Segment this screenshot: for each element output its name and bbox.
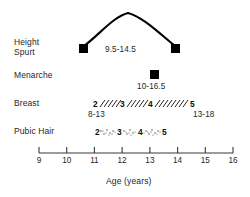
axis-title-age: Age (years) [106,176,152,186]
breast-stage-5: 5 [190,99,195,109]
pubic-hair-stipple-2-3 [100,129,115,135]
pubic-hair-stage-4: 4 [138,127,143,137]
breast-start-range-label: 8-13 [88,110,105,119]
menarche-range-label: 10-16.5 [137,82,165,91]
height-spurt-curve [84,13,175,46]
axis-tick-label-12: 12 [112,156,132,165]
pubic-hair-stage-3: 3 [117,127,122,137]
axis-tick-label-15: 15 [195,156,215,165]
axis-tick-label-9: 9 [29,156,49,165]
axis-tick-label-11: 11 [84,156,104,165]
breast-hatch-2-3 [100,100,121,107]
height-spurt-range-label: 9.5-14.5 [105,45,136,54]
height-spurt-end-marker [171,44,180,53]
breast-hatch-4-5 [155,100,188,107]
row-label-menarche: Menarche [14,71,53,81]
row-label-height-spurt: Height Spurt [14,38,39,57]
pubic-hair-stage-5: 5 [162,127,167,137]
breast-stage-3: 3 [120,99,125,109]
row-label-breast: Breast [14,99,39,109]
breast-stage-2: 2 [93,99,98,109]
pubic-hair-stage-2: 2 [95,127,100,137]
breast-stage-4: 4 [148,99,153,109]
puberty-timeline-figure: Height Spurt 9.5-14.5 Menarche 10-16.5 B… [0,0,250,197]
axis-tick-label-10: 10 [57,156,77,165]
menarche-marker [150,70,159,79]
height-spurt-start-marker [79,44,88,53]
pubic-hair-stipple-4-5 [143,129,160,135]
pubic-hair-stipple-3-4 [123,129,135,135]
breast-end-range-label: 13-18 [193,110,214,119]
axis-tick-label-16: 16 [223,156,243,165]
age-axis [39,147,233,153]
row-label-pubic-hair: Pubic Hair [14,127,54,137]
axis-tick-label-13: 13 [140,156,160,165]
breast-hatch-3-4 [127,100,148,107]
axis-tick-label-14: 14 [168,156,188,165]
